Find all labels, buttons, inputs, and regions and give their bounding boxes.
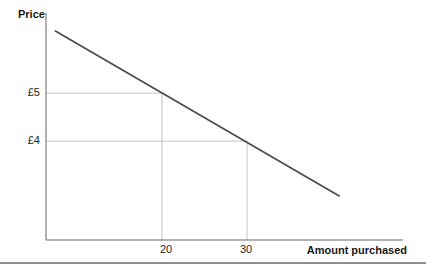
- x-axis-title: Amount purchased: [307, 244, 407, 257]
- page-bottom-rule: [0, 262, 426, 264]
- y-tick-label-4: £4: [28, 134, 40, 147]
- demand-curve-figure: Price Amount purchased £5 £4 20 30: [0, 0, 426, 270]
- y-axis-title: Price: [18, 8, 45, 21]
- demand-curve-line: [55, 31, 340, 197]
- chart-canvas: [0, 0, 426, 270]
- x-tick-label-30: 30: [240, 243, 252, 256]
- y-tick-label-5: £5: [28, 86, 40, 99]
- x-tick-label-20: 20: [160, 243, 172, 256]
